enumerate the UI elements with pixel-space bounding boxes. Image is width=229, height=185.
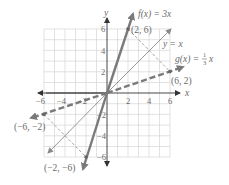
point-label-m2-m6: (−2, −6) bbox=[44, 163, 75, 174]
g-fraction-denominator: 3 bbox=[203, 59, 206, 66]
x-tick-4: 4 bbox=[147, 96, 152, 106]
x-axis-label: x bbox=[184, 88, 190, 98]
y-tick-6: 6 bbox=[101, 24, 105, 34]
x-tick-m2: −2 bbox=[78, 96, 87, 106]
x-tick-6: 6 bbox=[168, 96, 172, 106]
g-fraction-numerator: 1 bbox=[203, 51, 206, 58]
x-tick-m6: −6 bbox=[36, 96, 45, 106]
y-axis-label: y bbox=[103, 8, 109, 18]
line-f-of-x bbox=[107, 14, 133, 93]
point-label-6-2: (6, 2) bbox=[171, 76, 192, 87]
f-of-x-label: f(x) = 3x bbox=[138, 9, 172, 20]
x-tick-m4: −4 bbox=[57, 96, 67, 106]
point-m2-m6 bbox=[84, 155, 88, 159]
y-tick-m2: −2 bbox=[97, 110, 106, 120]
point-label-m6-m2: (−6, −2) bbox=[14, 122, 45, 133]
g-of-x-label: g(x) = bbox=[175, 54, 199, 65]
function-graph: y x −6 −4 −2 2 4 6 6 4 2 −2 −4 −6 f(x) =… bbox=[0, 0, 229, 185]
point-2-6 bbox=[126, 27, 130, 31]
y-tick-m6: −6 bbox=[97, 152, 106, 162]
y-tick-2: 2 bbox=[101, 67, 105, 77]
point-label-2-6: (2, 6) bbox=[131, 25, 152, 36]
x-tick-2: 2 bbox=[126, 96, 130, 106]
g-variable: x bbox=[208, 54, 214, 64]
y-equals-x-label: y = x bbox=[162, 39, 183, 49]
point-m6-m2 bbox=[42, 113, 46, 117]
y-tick-m4: −4 bbox=[97, 131, 107, 141]
point-6-2 bbox=[168, 70, 172, 74]
y-tick-4: 4 bbox=[101, 46, 106, 56]
